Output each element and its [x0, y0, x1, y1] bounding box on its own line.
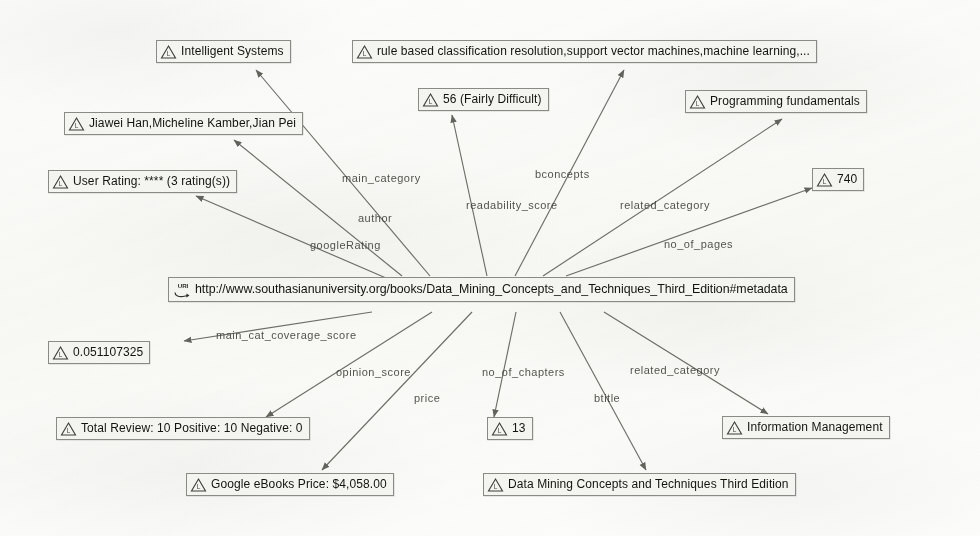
literal-icon: L [190, 477, 207, 493]
edge-line-no-of-chapters [494, 312, 516, 417]
uri-icon: URI [173, 281, 193, 299]
node-label: Data Mining Concepts and Techniques Thir… [508, 478, 789, 491]
node-no-of-pages[interactable]: L 740 [812, 168, 864, 191]
literal-icon: L [726, 420, 743, 436]
edge-line-google-rating [196, 196, 386, 278]
node-readability-score[interactable]: L 56 (Fairly Difficult) [418, 88, 549, 111]
node-intelligent-systems[interactable]: L Intelligent Systems [156, 40, 291, 63]
node-authors[interactable]: L Jiawei Han,Micheline Kamber,Jian Pei [64, 112, 303, 135]
node-label: http://www.southasianuniversity.org/book… [195, 283, 788, 296]
svg-text:L: L [197, 483, 201, 490]
node-information-management[interactable]: L Information Management [722, 416, 890, 439]
node-label: Information Management [747, 421, 883, 434]
svg-text:L: L [823, 178, 827, 185]
edge-label-bconcepts: bconcepts [535, 168, 590, 180]
graph-canvas: main_category bconcepts readability_scor… [0, 0, 980, 536]
node-label: 13 [512, 422, 526, 435]
node-label: Total Review: 10 Positive: 10 Negative: … [81, 422, 303, 435]
svg-text:L: L [59, 351, 63, 358]
node-bconcepts[interactable]: L rule based classification resolution,s… [352, 40, 817, 63]
node-user-rating[interactable]: L User Rating: **** (3 rating(s)) [48, 170, 237, 193]
literal-icon: L [491, 421, 508, 437]
svg-text:L: L [167, 50, 171, 57]
edge-line-related-category-bottom [604, 312, 768, 414]
literal-icon: L [356, 44, 373, 60]
literal-icon: L [422, 92, 439, 108]
node-programming-fundamentals[interactable]: L Programming fundamentals [685, 90, 867, 113]
edge-label-author: author [358, 212, 392, 224]
edge-label-price: price [414, 392, 440, 404]
node-label: Google eBooks Price: $4,058.00 [211, 478, 387, 491]
edge-label-related-category-bottom: related_category [630, 364, 720, 376]
node-label: 56 (Fairly Difficult) [443, 93, 542, 106]
svg-text:L: L [75, 122, 79, 129]
node-uri-subject[interactable]: URI http://www.southasianuniversity.org/… [168, 277, 795, 302]
literal-icon: L [52, 345, 69, 361]
edge-line-related-category-top [543, 119, 782, 276]
svg-text:L: L [696, 100, 700, 107]
edge-label-opinion-score: opinion_score [336, 366, 411, 378]
edge-line-readability-score [452, 115, 487, 276]
literal-icon: L [487, 477, 504, 493]
edge-line-opinion-score [266, 312, 432, 417]
literal-icon: L [689, 94, 706, 110]
node-label: User Rating: **** (3 rating(s)) [73, 175, 230, 188]
node-total-review[interactable]: L Total Review: 10 Positive: 10 Negative… [56, 417, 310, 440]
edge-label-related-category-top: related_category [620, 199, 710, 211]
edge-label-google-rating: googleRating [310, 239, 381, 251]
edge-layer [0, 0, 980, 536]
edge-line-btitle [560, 312, 646, 470]
node-label: Jiawei Han,Micheline Kamber,Jian Pei [89, 117, 296, 130]
svg-text:L: L [67, 427, 71, 434]
node-main-cat-coverage-score[interactable]: L 0.051107325 [48, 341, 150, 364]
edge-label-main-cat-coverage-score: main_cat_coverage_score [216, 329, 357, 341]
node-label: Intelligent Systems [181, 45, 284, 58]
svg-text:L: L [429, 98, 433, 105]
svg-text:L: L [498, 427, 502, 434]
node-price[interactable]: L Google eBooks Price: $4,058.00 [186, 473, 394, 496]
literal-icon: L [60, 421, 77, 437]
node-label: 0.051107325 [73, 346, 143, 359]
node-label: 740 [837, 173, 857, 186]
literal-icon: L [816, 172, 833, 188]
edge-label-no-of-pages: no_of_pages [664, 238, 733, 250]
svg-text:URI: URI [178, 282, 189, 289]
edge-label-no-of-chapters: no_of_chapters [482, 366, 565, 378]
literal-icon: L [52, 174, 69, 190]
edge-line-author [234, 140, 402, 276]
svg-text:L: L [494, 483, 498, 490]
node-label: Programming fundamentals [710, 95, 860, 108]
svg-text:L: L [733, 426, 737, 433]
literal-icon: L [68, 116, 85, 132]
literal-icon: L [160, 44, 177, 60]
edge-label-readability-score: readability_score [466, 199, 558, 211]
svg-text:L: L [363, 50, 367, 57]
node-label: rule based classification resolution,sup… [377, 45, 810, 58]
node-no-of-chapters[interactable]: L 13 [487, 417, 533, 440]
edge-label-main-category: main_category [342, 172, 421, 184]
edge-label-btitle: btitle [594, 392, 620, 404]
node-btitle[interactable]: L Data Mining Concepts and Techniques Th… [483, 473, 796, 496]
svg-text:L: L [59, 180, 63, 187]
